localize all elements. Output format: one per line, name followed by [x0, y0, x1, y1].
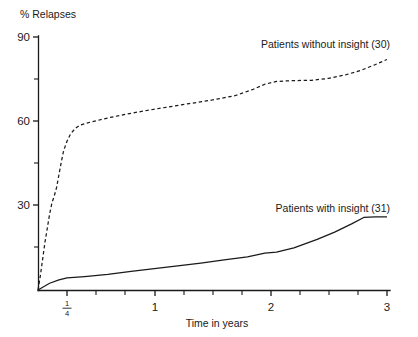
x-tick-label-quarter: 1 4: [63, 299, 72, 318]
fraction-denominator: 4: [65, 309, 69, 318]
y-tick-label-60: 60: [17, 115, 30, 127]
x-tick-label-1: 1: [152, 301, 158, 313]
y-axis-ticks: [33, 37, 39, 247]
y-tick-label-90: 90: [17, 31, 30, 43]
series-without-insight-line: [38, 59, 387, 290]
y-tick-label-30: 30: [17, 199, 30, 211]
x-tick-label-2: 2: [268, 301, 274, 313]
series-with-insight-line: [38, 217, 387, 290]
fraction-numerator: 1: [65, 299, 69, 308]
relapse-survival-chart: % Relapses 90 60 30: [0, 0, 418, 337]
x-axis-ticks: [67, 291, 387, 297]
y-axis-title: % Relapses: [20, 8, 76, 20]
x-tick-label-3: 3: [384, 301, 390, 313]
series-label-without-insight: Patients without insight (30): [261, 38, 390, 50]
series-label-with-insight: Patients with insight (31): [276, 202, 390, 214]
x-axis-title: Time in years: [186, 317, 249, 329]
axes: [38, 36, 390, 291]
chart-container: % Relapses 90 60 30: [0, 0, 418, 337]
